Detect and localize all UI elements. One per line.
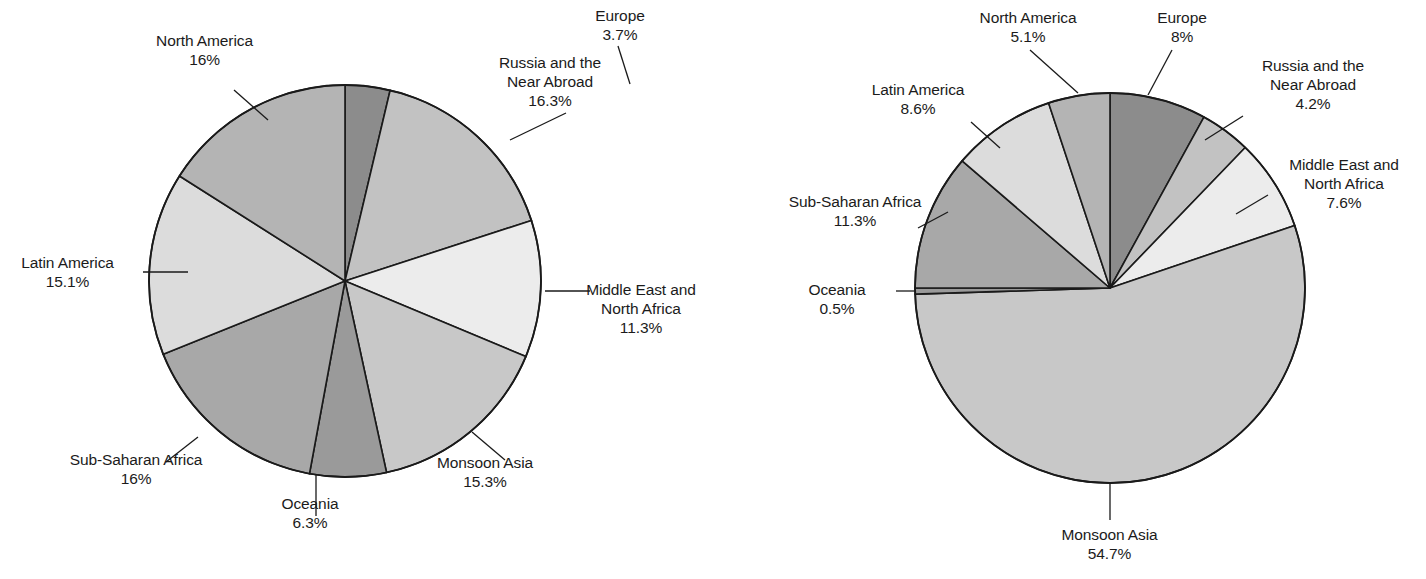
pie-slice-label: Monsoon Asia15.3% [400,453,570,491]
slice-name-text: Monsoon Asia [1032,525,1187,544]
pie-slice-label: Europe8% [1132,8,1232,46]
slice-name-text: Near Abroad [460,72,640,91]
slice-value-text: 15.3% [400,472,570,491]
slice-name-text: North Africa [1263,174,1425,193]
slice-name-text: Oceania [255,494,365,513]
pie-slice-label: Europe3.7% [560,6,680,44]
slice-value-text: 11.3% [766,211,944,230]
pie-slice-label: Russia and theNear Abroad4.2% [1233,56,1393,113]
slice-value-text: 16.3% [460,91,640,110]
slice-name-text: Latin America [0,253,135,272]
pie-slice-label: North America16% [127,31,282,69]
slice-value-text: 6.3% [255,513,365,532]
slice-name-text: Russia and the [460,53,640,72]
slice-name-text: Monsoon Asia [400,453,570,472]
slice-name-text: Oceania [782,280,892,299]
pie-slice-label: Monsoon Asia54.7% [1032,525,1187,563]
slice-name-text: Latin America [838,80,998,99]
pie-slice-label: Oceania6.3% [255,494,365,532]
slice-name-text: Europe [1132,8,1232,27]
pie-chart-figure: Europe3.7%Russia and theNear Abroad16.3%… [0,0,1426,579]
slice-name-text: North America [948,8,1108,27]
pie-slice-label: Middle East andNorth Africa11.3% [556,280,726,337]
slice-name-text: Sub-Saharan Africa [36,450,236,469]
pie-slice-label: Oceania0.5% [782,280,892,318]
pie-slice-label: Sub-Saharan Africa11.3% [766,192,944,230]
pie-slice-label: Latin America15.1% [0,253,135,291]
slice-value-text: 8.6% [838,99,998,118]
slice-value-text: 15.1% [0,272,135,291]
slice-name-text: Middle East and [1263,155,1425,174]
pie-slice-label: Russia and theNear Abroad16.3% [460,53,640,110]
label-leader-line [1148,50,1172,95]
slice-value-text: 4.2% [1233,94,1393,113]
slice-value-text: 11.3% [556,318,726,337]
slice-value-text: 16% [36,469,236,488]
slice-name-text: Russia and the [1233,56,1393,75]
slice-name-text: North America [127,31,282,50]
pie-slice-label: Middle East andNorth Africa7.6% [1263,155,1425,212]
slice-value-text: 7.6% [1263,193,1425,212]
label-leader-line [1030,50,1078,93]
slice-value-text: 3.7% [560,25,680,44]
pie-slice-label: North America5.1% [948,8,1108,46]
slice-value-text: 16% [127,50,282,69]
pie-slice-label: Sub-Saharan Africa16% [36,450,236,488]
slice-name-text: North Africa [556,299,726,318]
slice-name-text: Europe [560,6,680,25]
slice-name-text: Sub-Saharan Africa [766,192,944,211]
label-leader-line [510,113,566,140]
right-pie [896,50,1305,520]
slice-value-text: 0.5% [782,299,892,318]
pie-slice-label: Latin America8.6% [838,80,998,118]
slice-name-text: Middle East and [556,280,726,299]
slice-value-text: 8% [1132,27,1232,46]
slice-name-text: Near Abroad [1233,75,1393,94]
slice-value-text: 5.1% [948,27,1108,46]
slice-value-text: 54.7% [1032,544,1187,563]
